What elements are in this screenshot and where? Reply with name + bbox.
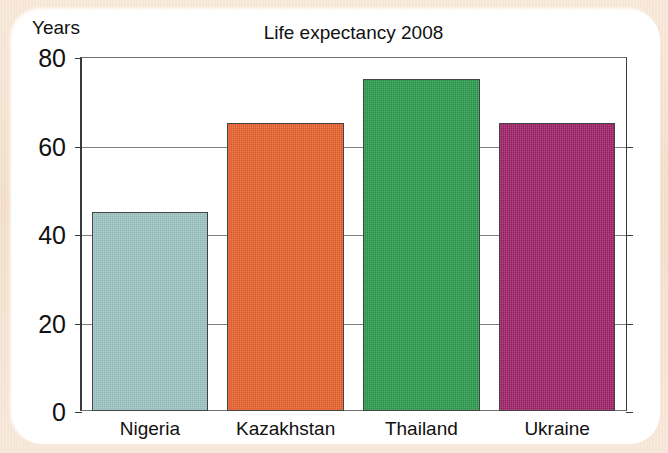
bar-chart: Years Life expectancy 2008 020406080 Nig…	[80, 57, 627, 421]
x-axis-tick-label: Thailand	[354, 418, 490, 440]
bar-slot: Ukraine	[489, 57, 625, 411]
y-axis-tick-right	[626, 235, 633, 236]
y-axis-tick-label: 40	[38, 221, 66, 250]
y-axis-tick-label: 80	[38, 44, 66, 73]
y-axis-label: Years	[32, 17, 80, 39]
bar-group: NigeriaKazakhstanThailandUkraine	[82, 57, 626, 411]
bar[interactable]	[499, 123, 616, 411]
y-axis-tick	[75, 324, 82, 325]
x-axis-tick-label: Nigeria	[82, 418, 218, 440]
bar[interactable]	[92, 212, 209, 411]
y-axis-tick	[75, 412, 82, 413]
bar-slot: Kazakhstan	[218, 57, 354, 411]
bar[interactable]	[227, 123, 344, 411]
y-axis-tick	[75, 147, 82, 148]
bar-slot: Thailand	[354, 57, 490, 411]
x-axis-tick-label: Kazakhstan	[218, 418, 354, 440]
y-axis-tick-label: 0	[52, 398, 66, 427]
page-background: Years Life expectancy 2008 020406080 Nig…	[0, 0, 668, 453]
figure-card: Years Life expectancy 2008 020406080 Nig…	[12, 10, 660, 444]
y-axis-tick-label: 20	[38, 309, 66, 338]
chart-title: Life expectancy 2008	[80, 22, 627, 44]
y-axis-tick	[75, 58, 82, 59]
x-axis-tick-label: Ukraine	[489, 418, 625, 440]
y-axis-tick	[75, 235, 82, 236]
bar[interactable]	[363, 79, 480, 411]
y-axis-tick-right	[626, 324, 633, 325]
y-axis-tick-right	[626, 412, 633, 413]
y-axis-tick-label: 60	[38, 132, 66, 161]
bar-slot: Nigeria	[82, 57, 218, 411]
y-axis-tick-right	[626, 147, 633, 148]
